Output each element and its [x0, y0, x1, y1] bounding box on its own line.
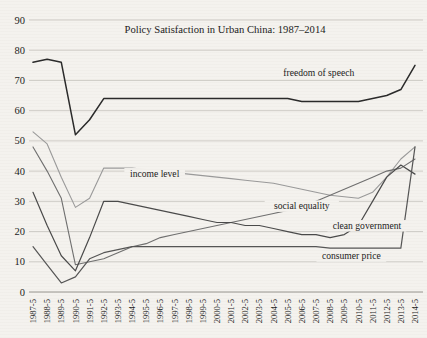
x-tick-2001-5: 2001-5 — [226, 299, 236, 323]
y-axis-tick-labels: 0102030405060708090 — [15, 15, 26, 298]
x-tick-1999-5: 1999-5 — [198, 299, 208, 323]
x-tick-1992-5: 1992-5 — [99, 299, 109, 323]
y-tick-70: 70 — [15, 75, 26, 86]
x-tick-2010-5: 2010-5 — [354, 299, 364, 323]
x-tick-2013-5: 2013-5 — [396, 299, 406, 323]
x-tick-1998-5: 1998-5 — [184, 299, 194, 323]
y-tick-0: 0 — [20, 287, 25, 298]
series-annotations: freedom of speechincome levelsocial equa… — [124, 67, 406, 262]
chart-figure: 0102030405060708090 1987-51988-51989-519… — [0, 0, 427, 338]
x-tick-2000-5: 2000-5 — [212, 299, 222, 323]
x-tick-1990-5: 1990-5 — [71, 299, 81, 323]
x-tick-2008-5: 2008-5 — [325, 299, 335, 323]
x-tick-2014-5: 2014-5 — [410, 299, 420, 323]
y-tick-40: 40 — [15, 166, 26, 177]
x-tick-2011-5: 2011-5 — [368, 299, 378, 323]
x-tick-1991-5: 1991-5 — [85, 299, 95, 323]
x-tick-2002-5: 2002-5 — [240, 299, 250, 323]
x-tick-1987-5: 1987-5 — [28, 299, 38, 323]
y-tick-80: 80 — [15, 45, 26, 56]
y-tick-60: 60 — [15, 105, 26, 116]
y-tick-50: 50 — [15, 135, 26, 146]
x-tick-1994-5: 1994-5 — [127, 299, 137, 323]
x-axis-tick-labels: 1987-51988-51989-51990-51991-51992-51993… — [28, 299, 420, 323]
y-tick-90: 90 — [15, 15, 26, 26]
series-label-clean-government: clean government — [333, 220, 402, 231]
series-line-income-level — [33, 132, 415, 208]
series-label-freedom-of-speech: freedom of speech — [283, 67, 354, 78]
x-tick-2006-5: 2006-5 — [297, 299, 307, 323]
y-tick-30: 30 — [15, 196, 26, 207]
series-line-consumer-price — [33, 147, 415, 283]
chart-title: Policy Satisfaction in Urban China: 1987… — [125, 24, 327, 35]
x-tick-2004-5: 2004-5 — [269, 299, 279, 323]
x-tick-1993-5: 1993-5 — [113, 299, 123, 323]
x-tick-1995-5: 1995-5 — [141, 299, 151, 323]
x-tick-1996-5: 1996-5 — [155, 299, 165, 323]
x-tick-2007-5: 2007-5 — [311, 299, 321, 323]
x-tick-2003-5: 2003-5 — [254, 299, 264, 323]
x-tick-1997-5: 1997-5 — [170, 299, 180, 323]
x-tick-1989-5: 1989-5 — [56, 299, 66, 323]
line-chart: 0102030405060708090 1987-51988-51989-519… — [0, 0, 427, 338]
x-tick-2009-5: 2009-5 — [339, 299, 349, 323]
series-label-consumer-price: consumer price — [322, 250, 381, 261]
x-tick-2012-5: 2012-5 — [382, 299, 392, 323]
series-label-income-level: income level — [130, 168, 180, 179]
y-tick-10: 10 — [15, 256, 26, 267]
y-tick-20: 20 — [15, 226, 26, 237]
series-label-social-equality: social equality — [274, 200, 330, 211]
x-tick-2005-5: 2005-5 — [283, 299, 293, 323]
x-tick-1988-5: 1988-5 — [42, 299, 52, 323]
